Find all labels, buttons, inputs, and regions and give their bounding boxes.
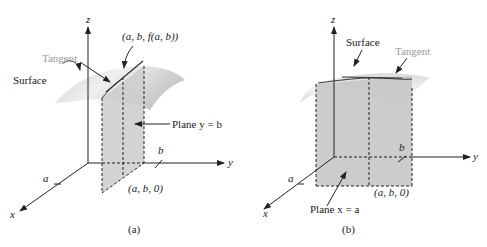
figure-b: z y x Surface Tangent Plane x = a b a (a… bbox=[262, 13, 478, 236]
x-axis-label-a: x bbox=[9, 208, 15, 220]
plane-label-a: Plane y = b bbox=[172, 118, 222, 130]
a-label-b: a bbox=[288, 172, 294, 184]
y-axis-label-a: y bbox=[227, 156, 233, 168]
surface-label-a: Surface bbox=[13, 74, 47, 86]
base-point-label-a: (a, b, 0) bbox=[128, 182, 163, 195]
b-label-a: b bbox=[158, 144, 164, 156]
point-label-a: (a, b, f(a, b)) bbox=[122, 30, 179, 43]
base-point-label-b: (a, b, 0) bbox=[374, 186, 409, 199]
z-axis-label-a: z bbox=[85, 13, 91, 25]
tangent-label-a: Tangent bbox=[42, 52, 77, 64]
tangent-label-b: Tangent bbox=[395, 45, 430, 57]
plane-x-a bbox=[316, 76, 412, 186]
a-label-a: a bbox=[43, 172, 49, 184]
plane-label-b: Plane x = a bbox=[310, 203, 359, 215]
caption-b: (b) bbox=[342, 223, 355, 236]
z-axis-label-b: z bbox=[330, 13, 336, 25]
x-axis-label-b: x bbox=[262, 207, 268, 219]
y-axis-label-b: y bbox=[472, 150, 478, 162]
figure-canvas: z y x (a, b, f(a, b)) Tangent Surface Pl… bbox=[0, 0, 487, 247]
caption-a: (a) bbox=[128, 223, 141, 236]
b-label-b: b bbox=[399, 141, 405, 153]
surface-label-b: Surface bbox=[346, 36, 380, 48]
figure-a: z y x (a, b, f(a, b)) Tangent Surface Pl… bbox=[9, 13, 233, 236]
x-axis-a bbox=[20, 163, 88, 211]
